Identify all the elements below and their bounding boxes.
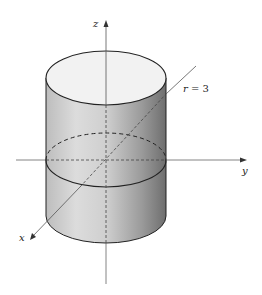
radius-label: r = 3	[183, 83, 209, 94]
y-axis-arrow-icon	[240, 158, 247, 163]
y-axis-label: y	[241, 165, 248, 176]
x-axis-label: x	[19, 232, 25, 243]
z-axis-label: z	[92, 18, 99, 29]
z-axis-arrow-icon	[104, 20, 109, 27]
cylinder-diagram: z y x r = 3	[0, 0, 262, 295]
